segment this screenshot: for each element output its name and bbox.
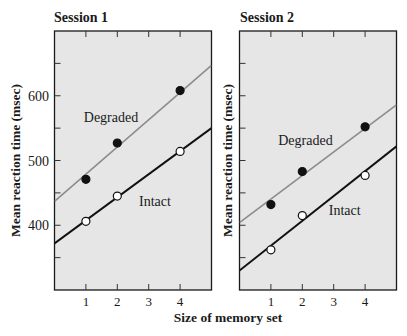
data-point-intact: [113, 192, 121, 200]
x-tick-label: 1: [83, 294, 90, 309]
x-tick-label: 3: [330, 294, 337, 309]
series-label-intact: Intact: [329, 203, 361, 218]
x-tick-label: 1: [268, 294, 275, 309]
series-label-intact: Intact: [139, 194, 171, 209]
y-tick-label: 500: [28, 154, 49, 169]
x-tick-label: 3: [145, 294, 152, 309]
series-label-degraded: Degraded: [278, 133, 332, 148]
panel-title: Session 1: [54, 10, 108, 25]
panel-session-2: Session 2Mean reaction time (msec)1234De…: [220, 10, 397, 309]
x-tick-label: 2: [299, 294, 306, 309]
y-tick-label: 600: [28, 89, 49, 104]
panel-title: Session 2: [240, 10, 294, 25]
data-point-intact: [82, 217, 90, 225]
data-point-intact: [267, 246, 275, 254]
y-tick-label: 400: [28, 218, 49, 233]
data-point-degraded: [176, 87, 184, 95]
series-label-degraded: Degraded: [84, 110, 138, 125]
y-axis-title: Mean reaction time (msec): [220, 84, 235, 237]
data-point-degraded: [82, 175, 90, 183]
data-point-degraded: [267, 201, 275, 209]
x-axis-title: Size of memory set: [174, 310, 283, 325]
figure: Session 1Mean reaction time (msec)400500…: [0, 0, 407, 336]
plot-area: [55, 31, 212, 290]
data-point-intact: [361, 171, 369, 179]
data-point-degraded: [298, 168, 306, 176]
data-point-intact: [176, 147, 184, 155]
data-point-degraded: [113, 139, 121, 147]
y-axis-title: Mean reaction time (msec): [8, 84, 23, 237]
data-point-intact: [298, 212, 306, 220]
data-point-degraded: [361, 123, 369, 131]
x-tick-label: 4: [362, 294, 369, 309]
x-tick-label: 4: [177, 294, 184, 309]
x-tick-label: 2: [114, 294, 121, 309]
panel-session-1: Session 1Mean reaction time (msec)400500…: [8, 10, 212, 309]
